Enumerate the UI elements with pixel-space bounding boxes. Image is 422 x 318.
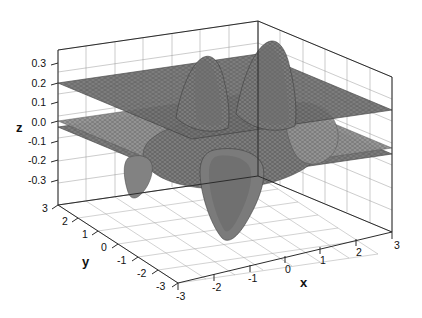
- y-tick-label: 2: [62, 216, 68, 227]
- y-axis-title: y: [82, 255, 89, 268]
- x-tick-label: 2: [356, 247, 362, 258]
- z-tick-label: 0.3: [14, 58, 46, 69]
- y-tick-label: 0: [101, 242, 107, 253]
- z-axis-title: z: [16, 121, 23, 134]
- x-tick-label: 1: [320, 255, 326, 266]
- z-tick-label: -0.3: [10, 175, 46, 186]
- z-tick-label: -0.2: [10, 155, 46, 166]
- plot-canvas: [0, 0, 422, 318]
- y-tick-label: -2: [137, 268, 146, 279]
- y-tick-label: -3: [156, 281, 165, 292]
- x-tick-label: -2: [212, 282, 221, 293]
- z-tick-label: -0.1: [10, 136, 46, 147]
- x-tick-label: 0: [285, 264, 291, 275]
- x-tick-label: -1: [248, 273, 257, 284]
- z-tick-label: 0.2: [14, 78, 46, 89]
- y-tick-label: -1: [117, 255, 126, 266]
- z-tick-label: 0.1: [14, 97, 46, 108]
- y-axis-ticks: [52, 205, 178, 287]
- x-tick-label: 3: [394, 240, 400, 251]
- y-tick-label: 3: [42, 203, 48, 214]
- z-axis-ticks: [51, 63, 58, 182]
- x-tick-label: -3: [176, 291, 185, 302]
- x-axis-title: x: [300, 276, 307, 289]
- surface-plot-figure: 0.3 0.2 0.1 0.0 -0.1 -0.2 -0.3 z 3 2 1 0…: [0, 0, 422, 318]
- y-tick-label: 1: [82, 229, 88, 240]
- x-axis-ticks: [178, 232, 392, 290]
